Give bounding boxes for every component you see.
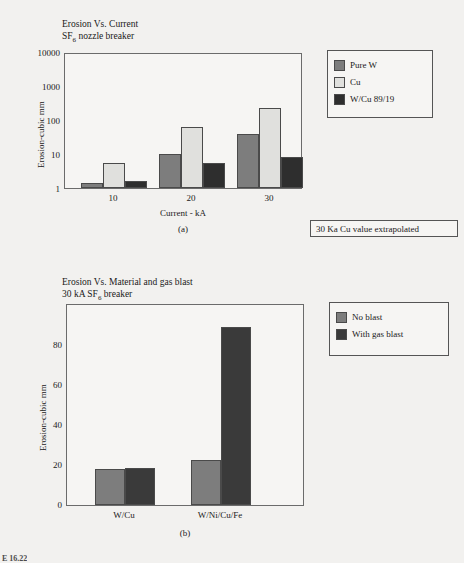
chart-a-legend: Pure W Cu W/Cu 89/19 (327, 50, 433, 118)
legend-label-cu: Cu (350, 77, 361, 87)
chart-b-title-line1: Erosion Vs. Material and gas blast (62, 276, 193, 288)
chart-a-title-line1: Erosion Vs. Current (62, 18, 138, 30)
figure-b: Erosion Vs. Material and gas blast 30 kA… (0, 256, 464, 560)
chart-a-xtick-20: 20 (187, 193, 196, 203)
legend-swatch-icon-no-blast (336, 312, 347, 323)
bar-withblast-wcu (125, 468, 155, 505)
chart-a-ytick-10000: 10000 (18, 48, 60, 58)
legend-item-no-blast[interactable]: No blast (336, 309, 442, 325)
chart-a-xtick-10: 10 (109, 193, 118, 203)
legend-label-wcu: W/Cu 89/19 (350, 94, 394, 104)
bar-noblast-wnicufe (191, 460, 221, 505)
chart-b-panel-letter: (b) (180, 528, 191, 538)
chart-b-ytick-80: 80 (22, 340, 62, 350)
figure-caption-fragment: E 16.22 (2, 554, 27, 563)
legend-swatch-icon-wcu (334, 94, 345, 105)
chart-a-plot-area (64, 53, 302, 189)
bar-wcu-30 (281, 157, 303, 188)
legend-label-pure-w: Pure W (350, 60, 377, 70)
chart-a-title: Erosion Vs. Current SF6 nozzle breaker (62, 18, 138, 46)
chart-b-ytick-20: 20 (22, 460, 62, 470)
bar-cu-10 (103, 163, 125, 188)
bar-purew-20 (159, 154, 181, 188)
chart-b-plot-area (66, 304, 304, 506)
legend-swatch-icon-cu (334, 77, 345, 88)
chart-b-ylabel: Erosion-cubic mm (38, 384, 48, 451)
chart-a-annotation-box: 30 Ka Cu value extrapolated (310, 220, 458, 237)
chart-b-ytick-0: 0 (22, 500, 62, 510)
legend-label-no-blast: No blast (352, 312, 382, 322)
chart-b-ytick-60: 60 (22, 380, 62, 390)
chart-b-ytick-40: 40 (22, 420, 62, 430)
legend-swatch-icon-with-gas-blast (336, 329, 347, 340)
bar-purew-10 (81, 183, 103, 189)
bar-noblast-wcu (95, 469, 125, 505)
chart-b-legend: No blast With gas blast (329, 302, 449, 356)
chart-a-ytick-1: 1 (18, 184, 60, 194)
chart-b-title-line2: 30 kA SF6 breaker (62, 288, 193, 304)
bar-cu-20 (181, 127, 203, 188)
chart-b-title: Erosion Vs. Material and gas blast 30 kA… (62, 276, 193, 304)
chart-a-ytick-1000: 1000 (18, 82, 60, 92)
chart-a-xlabel: Current - kA (160, 208, 206, 218)
legend-item-pure-w[interactable]: Pure W (334, 57, 426, 73)
figure-a: Erosion Vs. Current SF6 nozzle breaker E… (0, 0, 464, 256)
chart-a-xtick-30: 30 (265, 193, 274, 203)
chart-a-ytick-100: 100 (18, 116, 60, 126)
legend-swatch-icon-pure-w (334, 60, 345, 71)
bar-wcu-10 (125, 181, 147, 188)
bar-wcu-20 (203, 163, 225, 188)
chart-a-title-line2: SF6 nozzle breaker (62, 30, 138, 46)
bar-withblast-wnicufe (221, 327, 251, 505)
chart-a-ytick-10: 10 (18, 150, 60, 160)
legend-item-with-gas-blast[interactable]: With gas blast (336, 326, 442, 342)
legend-label-with-gas-blast: With gas blast (352, 329, 403, 339)
legend-item-cu[interactable]: Cu (334, 74, 426, 90)
legend-item-wcu[interactable]: W/Cu 89/19 (334, 91, 426, 107)
chart-b-xtick-wcu: W/Cu (113, 510, 135, 520)
chart-a-panel-letter: (a) (178, 224, 188, 234)
bar-purew-30 (237, 134, 259, 188)
bar-cu-30 (259, 108, 281, 188)
chart-b-xtick-wnicufe: W/Ni/Cu/Fe (198, 510, 243, 520)
